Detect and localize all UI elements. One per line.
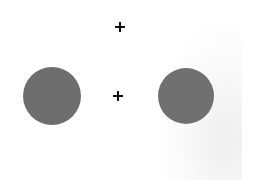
- left-disc: [23, 67, 81, 125]
- right-disc: [158, 68, 214, 124]
- upper-fixation-cross-icon: [115, 22, 125, 32]
- stimulus-canvas: [0, 0, 254, 191]
- center-fixation-cross-icon: [113, 91, 123, 101]
